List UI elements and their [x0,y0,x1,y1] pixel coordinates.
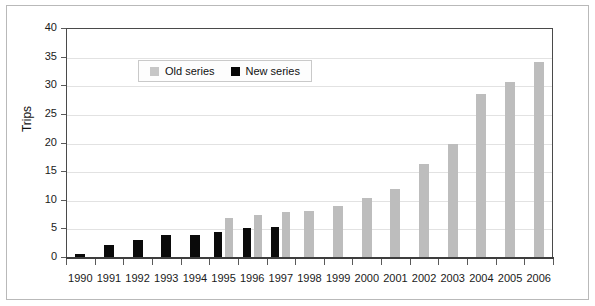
bar-group [496,28,525,257]
x-axis-tick [152,259,153,265]
x-axis-tick [123,259,124,265]
x-axis-tick [95,259,96,265]
legend-swatch-new-series-icon [231,67,240,76]
x-axis-tick [181,259,182,265]
bar-old-series [419,164,429,257]
legend-entry-new-series: New series [231,66,300,77]
x-axis-tick-label: 1998 [295,272,324,284]
y-axis-tick-label: 30 [33,79,57,90]
x-axis-tick-label: 2006 [524,272,553,284]
x-axis-tick [467,259,468,265]
bar-new-series [243,228,251,257]
x-axis-tick [324,259,325,265]
bar-new-series [133,240,143,257]
x-axis-tick [496,259,497,265]
bar-group [66,28,95,257]
x-axis-tick [410,259,411,265]
bar-old-series [282,212,290,257]
legend-label-new-series: New series [246,66,300,77]
bar-old-series [476,94,486,257]
bar-old-series [390,189,400,257]
x-axis-tick [381,259,382,265]
x-axis-tick-label: 1992 [123,272,152,284]
x-axis-tick-label: 2005 [496,272,525,284]
x-axis-tick-label: 1990 [66,272,95,284]
bar-old-series [362,198,372,257]
y-axis-tick-label: 40 [33,22,57,33]
x-axis-tick-label: 1991 [95,272,124,284]
legend-label-old-series: Old series [165,66,215,77]
bar-old-series [304,211,314,257]
bar-group [95,28,124,257]
bar-old-series [333,206,343,257]
x-axis-tick [524,259,525,265]
x-axis-tick [66,259,67,265]
y-axis-tick-label: 10 [33,194,57,205]
x-axis-tick-label: 1993 [152,272,181,284]
y-axis-tick-label: 5 [33,222,57,233]
x-axis-tick-label: 2004 [467,272,496,284]
x-axis-tick-label: 1995 [209,272,238,284]
bar-new-series [214,232,222,257]
y-axis-tick-label: 0 [33,251,57,262]
x-axis-tick [295,259,296,265]
x-axis-tick-label: 1997 [267,272,296,284]
bar-new-series [190,235,200,257]
x-axis-tick-label: 2001 [381,272,410,284]
legend-entry-old-series: Old series [150,66,215,77]
bar-group [467,28,496,257]
y-axis-tick-label: 15 [33,165,57,176]
bar-new-series [271,227,279,257]
x-axis-tick [238,259,239,265]
bar-group [410,28,439,257]
bar-group [324,28,353,257]
x-axis-tick [553,259,554,265]
x-axis-tick-label: 2000 [352,272,381,284]
y-axis-tick-label: 35 [33,51,57,62]
bar-new-series [104,245,114,257]
x-axis-line [66,257,554,259]
x-axis-tick-label: 1999 [324,272,353,284]
x-axis-tick-label: 1996 [238,272,267,284]
bar-group [352,28,381,257]
x-axis-tick [438,259,439,265]
bar-old-series [225,218,233,258]
chart-figure: Trips 0510152025303540 19901991199219931… [0,0,595,306]
y-axis-tick-label: 20 [33,137,57,148]
bar-group [381,28,410,257]
y-axis-tick-label: 25 [33,108,57,119]
bar-old-series [254,215,262,257]
x-axis-tick [352,259,353,265]
bar-old-series [534,62,544,257]
x-axis-tick [209,259,210,265]
bar-group [524,28,553,257]
x-axis-tick-label: 2003 [438,272,467,284]
legend-swatch-old-series-icon [150,67,159,76]
chart-legend: Old series New series [138,60,312,82]
bar-old-series [505,82,515,257]
bar-group [438,28,467,257]
x-axis-tick-label: 2002 [410,272,439,284]
bar-old-series [448,144,458,257]
bar-new-series [161,235,171,257]
x-axis-tick [267,259,268,265]
x-axis-tick-label: 1994 [181,272,210,284]
